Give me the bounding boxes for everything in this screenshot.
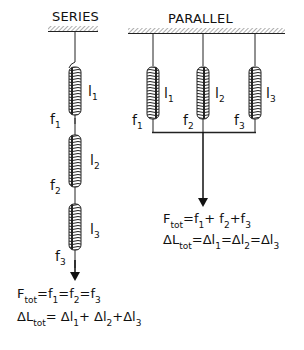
series-springs bbox=[69, 32, 81, 268]
parallel-force-equation: Ftot=f1+ f2+f3 bbox=[163, 212, 251, 225]
series-length-label-3: l3 bbox=[90, 222, 100, 236]
parallel-force-label-3: f3 bbox=[234, 113, 245, 127]
parallel-length-label-1: l1 bbox=[164, 86, 174, 100]
series-force-label-1: f1 bbox=[50, 112, 61, 126]
series-force-equation: Ftot=f1=f2=f3 bbox=[17, 287, 101, 300]
parallel-arrow bbox=[198, 132, 208, 207]
parallel-ceiling bbox=[128, 28, 285, 34]
parallel-length-label-3: l3 bbox=[266, 86, 276, 100]
series-force-label-2: f2 bbox=[50, 178, 61, 192]
parallel-length-label-2: l2 bbox=[215, 86, 225, 100]
series-ceiling bbox=[48, 26, 98, 32]
series-length-equation: ΔLtot= Δl1+ Δl2+Δl3 bbox=[17, 310, 141, 323]
series-force-label-3: f3 bbox=[55, 249, 66, 263]
parallel-length-equation: ΔLtot=Δl1=Δl2=Δl3 bbox=[163, 233, 279, 246]
parallel-title: PARALLEL bbox=[168, 12, 233, 25]
series-length-label-1: l1 bbox=[88, 84, 98, 98]
series-length-label-2: l2 bbox=[90, 153, 100, 167]
parallel-force-label-2: f2 bbox=[183, 113, 194, 127]
series-arrow bbox=[70, 260, 80, 281]
parallel-force-label-1: f1 bbox=[132, 113, 143, 127]
series-title: SERIES bbox=[52, 10, 99, 23]
